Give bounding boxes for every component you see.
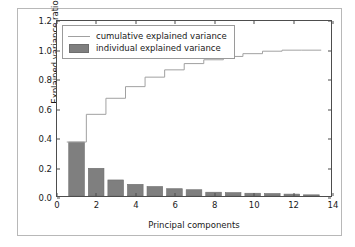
y-tick-mark [328, 21, 331, 22]
legend-item-individual: individual explained variance [68, 42, 227, 54]
bar-individual-variance [304, 195, 320, 196]
x-tick-mark [96, 193, 97, 196]
legend-swatch-icon [68, 43, 90, 53]
y-tick-mark [328, 50, 331, 51]
legend-label-cumulative: cumulative explained variance [96, 31, 227, 42]
x-tick-mark [135, 21, 136, 24]
figure-panel: Explained variance ratio Principal compo… [17, 8, 342, 236]
bar-individual-variance [147, 187, 163, 196]
x-tick-mark [214, 193, 215, 196]
y-tick-mark [328, 80, 331, 81]
x-tick-label: 2 [94, 200, 99, 210]
y-tick-label: 0.4 [38, 134, 52, 144]
x-tick-mark [254, 21, 255, 24]
x-tick-mark [57, 193, 58, 196]
bar-individual-variance [108, 180, 124, 196]
bar-individual-variance [186, 190, 202, 196]
x-tick-mark [333, 21, 334, 24]
y-tick-mark [57, 50, 60, 51]
y-tick-mark [328, 139, 331, 140]
bar-individual-variance [69, 142, 85, 196]
legend-label-individual: individual explained variance [96, 43, 221, 54]
y-tick-mark [328, 168, 331, 169]
x-tick-label: 10 [249, 200, 260, 210]
y-tick-label: 0.0 [38, 193, 52, 203]
y-tick-mark [328, 109, 331, 110]
x-tick-mark [175, 21, 176, 24]
bar-individual-variance [88, 168, 104, 196]
bar-individual-variance [225, 193, 241, 196]
legend-line-icon [68, 31, 90, 41]
x-tick-mark [254, 193, 255, 196]
x-tick-label: 8 [212, 200, 217, 210]
y-tick-label: 0.2 [38, 164, 52, 174]
x-tick-label: 14 [328, 200, 339, 210]
y-tick-mark [57, 139, 60, 140]
bar-individual-variance [284, 194, 300, 196]
y-tick-mark [57, 168, 60, 169]
y-tick-label: 1.0 [38, 46, 52, 56]
x-tick-mark [96, 21, 97, 24]
line-cumulative-variance [67, 50, 321, 142]
x-tick-mark [214, 21, 215, 24]
y-tick-mark [57, 198, 60, 199]
legend-item-cumulative: cumulative explained variance [68, 30, 227, 42]
x-tick-label: 4 [133, 200, 138, 210]
y-tick-mark [57, 109, 60, 110]
x-tick-mark [175, 193, 176, 196]
y-tick-label: 0.6 [38, 105, 52, 115]
chart-legend: cumulative explained variance individual… [62, 25, 235, 59]
x-tick-label: 12 [288, 200, 299, 210]
x-tick-label: 6 [173, 200, 178, 210]
x-tick-label: 0 [54, 200, 59, 210]
y-tick-label: 1.2 [38, 16, 52, 26]
y-tick-mark [57, 80, 60, 81]
x-tick-mark [135, 193, 136, 196]
y-tick-label: 0.8 [38, 75, 52, 85]
plot-area: cumulative explained variance individual… [56, 20, 332, 197]
bar-individual-variance [264, 194, 280, 196]
y-tick-mark [328, 198, 331, 199]
x-tick-mark [293, 193, 294, 196]
x-axis-label: Principal components [56, 220, 332, 230]
x-tick-mark [333, 193, 334, 196]
x-tick-mark [57, 21, 58, 24]
x-tick-mark [293, 21, 294, 24]
